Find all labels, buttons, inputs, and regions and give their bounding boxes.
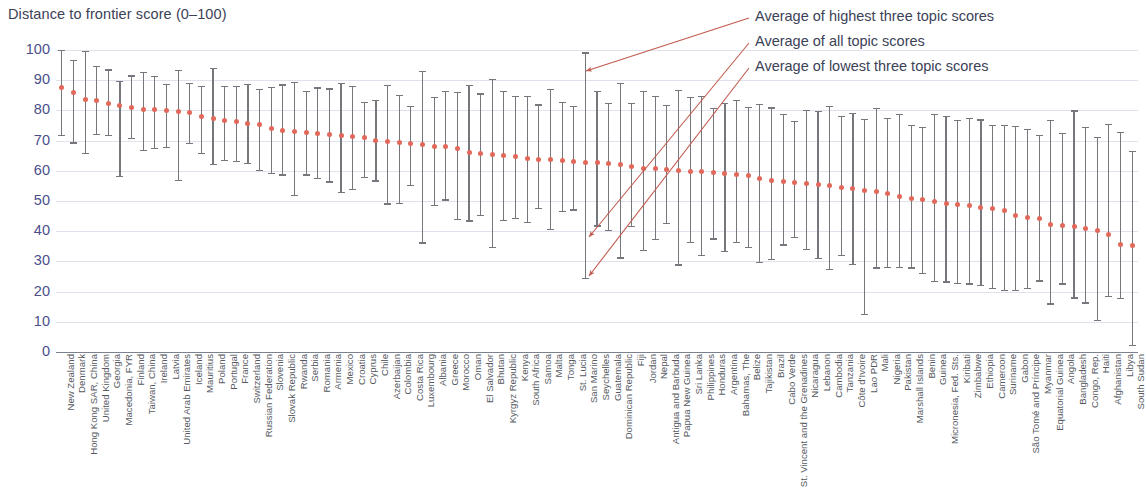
- data-point-group[interactable]: [149, 50, 160, 352]
- data-point-group[interactable]: [1115, 50, 1126, 352]
- data-point-group[interactable]: [778, 50, 789, 352]
- data-point-group[interactable]: [382, 50, 393, 352]
- data-point-group[interactable]: [324, 50, 335, 352]
- data-point-group[interactable]: [696, 50, 707, 352]
- data-point-group[interactable]: [580, 50, 591, 352]
- data-point-group[interactable]: [824, 50, 835, 352]
- data-point-group[interactable]: [56, 50, 67, 352]
- x-axis-label: St. Lucia: [578, 354, 588, 391]
- whisker-cap-low: [780, 244, 787, 245]
- data-point-group[interactable]: [626, 50, 637, 352]
- data-point-group[interactable]: [754, 50, 765, 352]
- data-point-group[interactable]: [347, 50, 358, 352]
- data-point-group[interactable]: [440, 50, 451, 352]
- data-point-group[interactable]: [1103, 50, 1114, 352]
- data-point-group[interactable]: [545, 50, 556, 352]
- data-point-group[interactable]: [708, 50, 719, 352]
- data-point-group[interactable]: [161, 50, 172, 352]
- data-point-group[interactable]: [964, 50, 975, 352]
- data-point-group[interactable]: [1080, 50, 1091, 352]
- data-point-group[interactable]: [1057, 50, 1068, 352]
- data-point-group[interactable]: [847, 50, 858, 352]
- data-point-group[interactable]: [975, 50, 986, 352]
- data-point-group[interactable]: [498, 50, 509, 352]
- data-point-group[interactable]: [312, 50, 323, 352]
- data-point-group[interactable]: [510, 50, 521, 352]
- data-point-group[interactable]: [68, 50, 79, 352]
- data-point-group[interactable]: [475, 50, 486, 352]
- data-point-group[interactable]: [452, 50, 463, 352]
- data-point-group[interactable]: [789, 50, 800, 352]
- data-point-group[interactable]: [336, 50, 347, 352]
- data-point-group[interactable]: [766, 50, 777, 352]
- data-point-group[interactable]: [1045, 50, 1056, 352]
- data-point-group[interactable]: [871, 50, 882, 352]
- data-point-group[interactable]: [952, 50, 963, 352]
- data-point-group[interactable]: [999, 50, 1010, 352]
- data-point-group[interactable]: [80, 50, 91, 352]
- data-point-group[interactable]: [719, 50, 730, 352]
- data-point-group[interactable]: [882, 50, 893, 352]
- data-point-group[interactable]: [929, 50, 940, 352]
- data-point-group[interactable]: [638, 50, 649, 352]
- whisker-cap-low: [1047, 303, 1054, 304]
- data-point-group[interactable]: [941, 50, 952, 352]
- data-point-group[interactable]: [394, 50, 405, 352]
- data-point-group[interactable]: [673, 50, 684, 352]
- data-point-group[interactable]: [533, 50, 544, 352]
- data-point-group[interactable]: [208, 50, 219, 352]
- data-point-group[interactable]: [464, 50, 475, 352]
- data-point-group[interactable]: [731, 50, 742, 352]
- data-point-group[interactable]: [219, 50, 230, 352]
- data-point-group[interactable]: [1092, 50, 1103, 352]
- data-point-group[interactable]: [359, 50, 370, 352]
- data-point-group[interactable]: [1127, 50, 1138, 352]
- data-point-group[interactable]: [987, 50, 998, 352]
- data-point-group[interactable]: [603, 50, 614, 352]
- data-point-group[interactable]: [836, 50, 847, 352]
- data-point-group[interactable]: [91, 50, 102, 352]
- data-point-group[interactable]: [254, 50, 265, 352]
- data-point-group[interactable]: [743, 50, 754, 352]
- data-point-group[interactable]: [370, 50, 381, 352]
- data-point-group[interactable]: [813, 50, 824, 352]
- data-point-group[interactable]: [859, 50, 870, 352]
- data-point-group[interactable]: [1022, 50, 1033, 352]
- data-point-group[interactable]: [522, 50, 533, 352]
- data-point-group[interactable]: [429, 50, 440, 352]
- data-point-group[interactable]: [196, 50, 207, 352]
- data-point-group[interactable]: [557, 50, 568, 352]
- data-point-group[interactable]: [615, 50, 626, 352]
- data-point-group[interactable]: [1010, 50, 1021, 352]
- data-point-group[interactable]: [184, 50, 195, 352]
- data-point-group[interactable]: [661, 50, 672, 352]
- data-point-group[interactable]: [1034, 50, 1045, 352]
- data-point-group[interactable]: [568, 50, 579, 352]
- data-point-group[interactable]: [126, 50, 137, 352]
- data-point-group[interactable]: [1069, 50, 1080, 352]
- data-point-group[interactable]: [114, 50, 125, 352]
- data-point-group[interactable]: [917, 50, 928, 352]
- x-axis-label: Greece: [450, 354, 460, 385]
- data-point-group[interactable]: [138, 50, 149, 352]
- data-point-group[interactable]: [266, 50, 277, 352]
- data-point-group[interactable]: [242, 50, 253, 352]
- data-point-group[interactable]: [405, 50, 416, 352]
- x-axis-label: San Marino: [589, 354, 599, 403]
- data-point-group[interactable]: [906, 50, 917, 352]
- data-point-group[interactable]: [650, 50, 661, 352]
- x-axis-label: Angola: [1066, 354, 1076, 384]
- data-point-group[interactable]: [685, 50, 696, 352]
- data-point-group[interactable]: [301, 50, 312, 352]
- data-point-group[interactable]: [277, 50, 288, 352]
- data-point-group[interactable]: [103, 50, 114, 352]
- data-point-group[interactable]: [487, 50, 498, 352]
- data-point-group[interactable]: [289, 50, 300, 352]
- whisker-line: [1015, 126, 1016, 290]
- data-point-group[interactable]: [894, 50, 905, 352]
- data-point-group[interactable]: [592, 50, 603, 352]
- data-point-group[interactable]: [801, 50, 812, 352]
- data-point-group[interactable]: [231, 50, 242, 352]
- data-point-group[interactable]: [417, 50, 428, 352]
- data-point-group[interactable]: [173, 50, 184, 352]
